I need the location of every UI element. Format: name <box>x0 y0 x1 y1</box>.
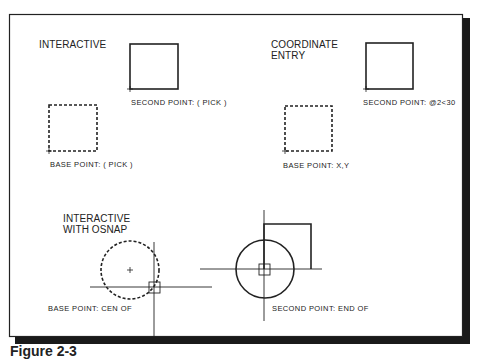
panel-title-interactive: INTERACTIVE <box>39 39 106 50</box>
base-point-prompt: BASE POINT: X,Y <box>283 161 349 170</box>
figure-frame <box>10 15 463 337</box>
second-point-prompt: SECOND POINT: END OF <box>272 304 369 313</box>
figure-caption: Figure 2-3 <box>10 343 77 359</box>
title-line-2: WITH OSNAP <box>63 224 130 235</box>
title-line-1: COORDINATE <box>271 39 338 50</box>
base-point-prompt: BASE POINT: ( PICK ) <box>50 160 133 169</box>
title-line-1: INTERACTIVE <box>63 213 130 224</box>
second-point-prompt: SECOND POINT: ( PICK ) <box>131 98 227 107</box>
second-point-prompt: SECOND POINT: @2<30 <box>363 98 456 107</box>
frame-shadow-right <box>463 18 470 344</box>
panel-title-coordinate-entry: COORDINATE ENTRY <box>271 39 338 61</box>
base-point-prompt: BASE POINT: CEN OF <box>48 304 132 313</box>
panel-title-interactive-osnap: INTERACTIVE WITH OSNAP <box>63 213 130 235</box>
title-line-2: ENTRY <box>271 50 338 61</box>
frame-shadow-bottom <box>15 337 470 344</box>
